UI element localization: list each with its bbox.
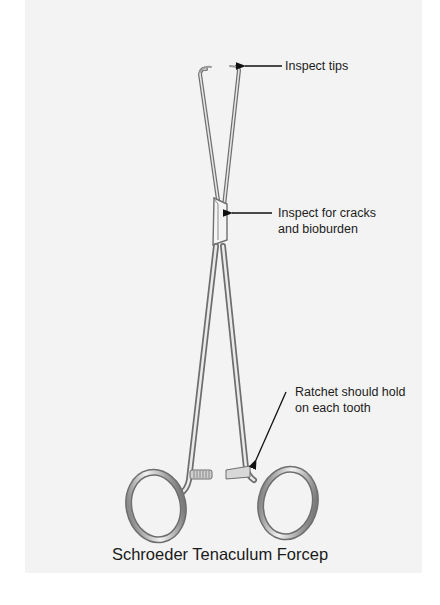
callout-ratchet-line-1: Ratchet should hold	[295, 384, 406, 400]
callout-tips-line-1: Inspect tips	[285, 58, 348, 74]
callout-ratchet-line-2: on each tooth	[295, 400, 406, 416]
forcep-illustration	[0, 0, 440, 605]
shanks	[180, 246, 254, 494]
jaws	[200, 66, 239, 206]
callout-box-joint-line-2: and bioburden	[278, 221, 376, 237]
callout-ratchet: Ratchet should hold on each tooth	[295, 384, 406, 416]
finger-rings	[123, 464, 322, 545]
ratchet	[190, 466, 250, 479]
figure-caption: Schroeder Tenaculum Forcep	[0, 545, 440, 564]
callout-box-joint-line-1: Inspect for cracks	[278, 205, 376, 221]
callout-box-joint: Inspect for cracks and bioburden	[278, 205, 376, 237]
callout-tips: Inspect tips	[285, 58, 348, 74]
arrow-ratchet-icon	[256, 392, 286, 460]
box-joint	[213, 198, 227, 245]
